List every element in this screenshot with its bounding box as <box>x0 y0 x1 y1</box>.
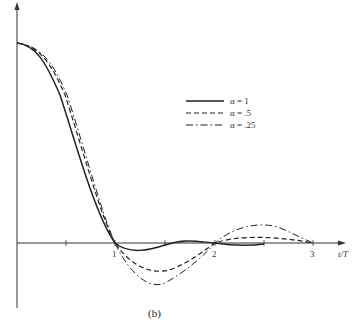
legend-label-alpha-1: α = 1 <box>230 96 249 106</box>
x-tick-3: 3 <box>310 249 315 259</box>
series-alpha-0.5 <box>17 43 313 271</box>
legend: α = 1 α = .5 α = .25 <box>186 96 256 130</box>
x-axis-arrow-icon <box>338 241 346 246</box>
series-alpha-0.25 <box>17 43 313 285</box>
chart: 1 2 3 t/T α = 1 α = .5 α = .25 (b) <box>0 0 360 332</box>
figure-caption: (b) <box>148 307 161 320</box>
y-axis-arrow-icon <box>15 2 20 10</box>
legend-label-alpha-0.25: α = .25 <box>230 120 256 130</box>
x-tick-1: 1 <box>112 249 117 259</box>
x-axis-label: t/T <box>338 249 349 259</box>
legend-label-alpha-0.5: α = .5 <box>230 108 252 118</box>
series-alpha-1 <box>17 43 264 250</box>
x-tick-2: 2 <box>212 249 217 259</box>
